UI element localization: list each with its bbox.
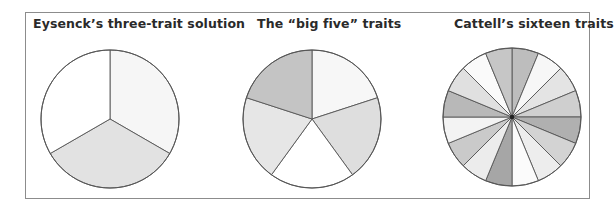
pie-chart-cattell (441, 46, 583, 188)
chart-title-cattell: Cattell’s sixteen traits (454, 16, 614, 31)
chart-title-big-five: The “big five” traits (257, 16, 401, 31)
pie-center-dot (510, 115, 514, 119)
pie-chart-eysenck (39, 48, 181, 190)
chart-title-eysenck: Eysenck’s three-trait solution (33, 16, 245, 31)
pie-chart-big-five (241, 48, 383, 190)
